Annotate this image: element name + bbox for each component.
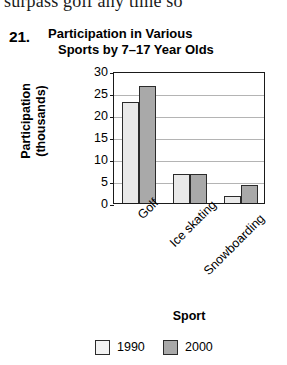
x-axis-label: Sport — [113, 309, 265, 323]
y-axis-tick-labels: 302520151050 — [76, 66, 108, 212]
y-axis-tick-label: 25 — [76, 88, 108, 100]
legend-swatch-1990 — [95, 340, 110, 355]
bar-1990-snowboarding — [224, 196, 241, 203]
legend-label-1990: 1990 — [117, 341, 145, 354]
chart-legend: 19902000 — [95, 338, 225, 358]
y-axis-label: Participation (thousands) — [19, 61, 53, 181]
y-axis-tick-label: 20 — [76, 110, 108, 122]
bar-1990-golf — [122, 102, 139, 203]
plot-area — [113, 72, 265, 204]
y-axis-tick-label: 30 — [76, 66, 108, 78]
chart-title-line-1: Participation in Various — [48, 26, 192, 41]
x-axis-category-label: Ice skating — [167, 198, 219, 250]
bar-1990-ice-skating — [173, 174, 190, 203]
legend-swatch-2000 — [163, 340, 178, 355]
bar-2000-ice-skating — [190, 174, 207, 203]
x-axis-category-label: Snowboarding — [201, 211, 267, 277]
y-axis-label-line-2: (thousands) — [34, 61, 49, 181]
legend-item-2000: 2000 — [163, 338, 213, 356]
bar-2000-snowboarding — [241, 185, 258, 203]
y-axis-tick-label: 0 — [76, 198, 108, 210]
clipped-prose-line: surpass golf any time so — [4, 0, 287, 11]
bar-group-container — [114, 73, 264, 203]
y-axis-tick-label: 15 — [76, 132, 108, 144]
legend-item-1990: 1990 — [95, 338, 145, 356]
x-axis-category-labels: GolfIce skatingSnowboarding — [113, 206, 287, 301]
bar-2000-golf — [139, 86, 156, 203]
problem-number: 21. — [9, 28, 30, 46]
y-axis-label-line-1: Participation — [19, 61, 34, 181]
chart-title: Participation in Various Sports by 7–17 … — [48, 26, 283, 58]
bar-chart-figure: Participation (thousands) 302520151050 G… — [0, 66, 287, 365]
chart-title-line-2: Sports by 7–17 Year Olds — [48, 42, 283, 58]
y-axis-tick-label: 10 — [76, 154, 108, 166]
y-axis-tick-label: 5 — [76, 176, 108, 188]
legend-label-2000: 2000 — [185, 341, 213, 354]
